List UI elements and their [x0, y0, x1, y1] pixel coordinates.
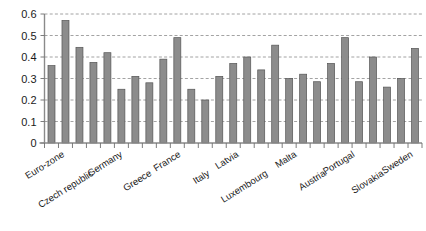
bar	[174, 38, 181, 143]
bar	[258, 70, 265, 143]
bar	[160, 59, 167, 143]
y-tick-label: 0.1	[21, 116, 36, 128]
bar	[286, 79, 293, 144]
bar	[230, 63, 237, 143]
bar	[76, 47, 83, 143]
bar	[118, 89, 125, 143]
bar	[48, 66, 55, 143]
y-tick-label: 0	[30, 137, 36, 149]
bar	[132, 76, 139, 143]
bar	[384, 87, 391, 143]
bar	[202, 100, 209, 143]
bar	[412, 48, 419, 143]
bar	[188, 89, 195, 143]
bar	[328, 63, 335, 143]
bar	[314, 82, 321, 143]
bar	[370, 57, 377, 143]
y-tick-label: 0.2	[21, 94, 36, 106]
bar-chart: 00.10.20.30.40.50.6 Euro-zoneCzech repub…	[0, 0, 426, 231]
bar	[244, 57, 251, 143]
bar	[90, 62, 97, 143]
y-tick-label: 0.3	[21, 73, 36, 85]
bar	[146, 83, 153, 143]
y-tick-label: 0.6	[21, 8, 36, 20]
bar	[300, 74, 307, 143]
bar	[104, 53, 111, 143]
bar	[342, 38, 349, 143]
bar	[216, 76, 223, 143]
y-tick-label: 0.4	[21, 51, 36, 63]
chart-canvas: 00.10.20.30.40.50.6 Euro-zoneCzech repub…	[0, 0, 426, 231]
bar	[398, 79, 405, 144]
bar	[356, 82, 363, 143]
y-tick-label: 0.5	[21, 30, 36, 42]
bar	[272, 45, 279, 143]
bar	[62, 20, 69, 143]
